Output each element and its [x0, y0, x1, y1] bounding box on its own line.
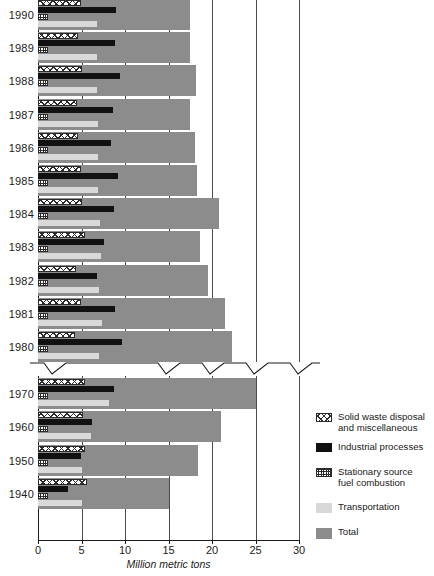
bar-industrial	[38, 206, 114, 212]
y-tick-1988: 1988	[0, 75, 34, 87]
bar-solid-waste	[38, 66, 82, 72]
y-tick-1984: 1984	[0, 208, 34, 220]
bar-transportation	[38, 21, 97, 27]
x-tick-20: 20	[197, 544, 227, 556]
bar-industrial	[38, 306, 115, 312]
legend-label: Stationary source fuel combustion	[338, 467, 434, 488]
legend-item: Transportation	[316, 502, 434, 518]
diagonal-hatch-icon	[316, 413, 332, 422]
x-tickmark-30	[299, 540, 300, 544]
bar-solid-waste	[38, 232, 85, 238]
y-tick-1983: 1983	[0, 241, 34, 253]
bar-solid-waste	[38, 166, 81, 172]
bar-solid-waste	[38, 266, 76, 272]
bar-row	[38, 331, 338, 364]
bar-stationary	[38, 393, 48, 399]
bar-row	[38, 198, 338, 231]
bar-transportation	[38, 54, 97, 60]
bar-industrial	[38, 419, 92, 425]
x-tick-5: 5	[67, 544, 97, 556]
y-tick-1982: 1982	[0, 275, 34, 287]
bar-transportation	[38, 253, 101, 259]
bar-row	[38, 445, 338, 478]
bar-industrial	[38, 386, 114, 392]
x-tickmark-25	[256, 540, 257, 544]
bar-transportation	[38, 353, 99, 359]
bar-solid-waste	[38, 33, 78, 39]
bar-stationary	[38, 346, 48, 352]
bar-row	[38, 32, 338, 65]
y-tick-1960: 1960	[0, 421, 34, 433]
bar-stationary	[38, 114, 48, 120]
bar-industrial	[38, 173, 118, 179]
bar-solid-waste	[38, 133, 78, 139]
bar-industrial	[38, 239, 104, 245]
bar-industrial	[38, 486, 68, 492]
bar-solid-waste	[38, 446, 85, 452]
bar-transportation	[38, 220, 100, 226]
bar-stationary	[38, 493, 48, 499]
bar-row	[38, 478, 338, 511]
x-tick-15: 15	[154, 544, 184, 556]
bar-solid-waste	[38, 479, 87, 485]
bar-industrial	[38, 339, 122, 345]
bar-stationary	[38, 180, 48, 186]
legend-item: Industrial processes	[316, 442, 434, 458]
bar-stationary	[38, 460, 48, 466]
bar-transportation	[38, 187, 98, 193]
bar-row	[38, 378, 338, 411]
bar-solid-waste	[38, 379, 85, 385]
bar-transportation	[38, 320, 102, 326]
emissions-bar-chart-figure: 051015202530 Million metric tons Solid w…	[0, 0, 434, 576]
legend-item: Stationary source fuel combustion	[316, 467, 434, 488]
x-tickmark-20	[212, 540, 213, 544]
bar-row	[38, 132, 338, 165]
bar-transportation	[38, 87, 97, 93]
x-tickmark-10	[125, 540, 126, 544]
bar-row	[38, 0, 338, 32]
bar-industrial	[38, 140, 111, 146]
dark-gray-icon	[316, 528, 332, 539]
bar-row	[38, 298, 338, 331]
bar-row	[38, 65, 338, 98]
bar-row	[38, 265, 338, 298]
legend-item: Total	[316, 527, 434, 543]
x-tick-25: 25	[241, 544, 271, 556]
axis-break-zigzag-icon	[30, 362, 320, 376]
y-tick-1987: 1987	[0, 109, 34, 121]
bar-solid-waste	[38, 332, 75, 338]
bar-industrial	[38, 7, 116, 13]
y-tick-1990: 1990	[0, 9, 34, 21]
legend-label: Total	[338, 527, 434, 538]
bar-stationary	[38, 246, 48, 252]
bar-transportation	[38, 154, 98, 160]
x-tick-0: 0	[23, 544, 53, 556]
bar-transportation	[38, 433, 91, 439]
legend-label: Industrial processes	[338, 442, 434, 453]
x-axis-title: Million metric tons	[38, 558, 299, 570]
axis-break	[30, 362, 320, 376]
bar-row	[38, 165, 338, 198]
bar-solid-waste	[38, 100, 77, 106]
bar-transportation	[38, 467, 82, 473]
bar-industrial	[38, 107, 113, 113]
bar-industrial	[38, 73, 120, 79]
checker-hatch-icon	[316, 468, 332, 477]
x-tick-30: 30	[284, 544, 314, 556]
bar-stationary	[38, 313, 48, 319]
legend-label: Solid waste disposal and miscellaneous	[338, 412, 434, 433]
bar-transportation	[38, 121, 98, 127]
y-tick-1950: 1950	[0, 455, 34, 467]
y-tick-1981: 1981	[0, 308, 34, 320]
bar-row	[38, 411, 338, 444]
y-tick-1980: 1980	[0, 341, 34, 353]
bar-solid-waste	[38, 0, 81, 6]
y-tick-1989: 1989	[0, 42, 34, 54]
bar-stationary	[38, 147, 48, 153]
y-tick-1940: 1940	[0, 488, 34, 500]
bar-stationary	[38, 47, 48, 53]
bar-stationary	[38, 213, 48, 219]
bar-solid-waste	[38, 199, 82, 205]
x-tick-10: 10	[110, 544, 140, 556]
bar-industrial	[38, 273, 97, 279]
